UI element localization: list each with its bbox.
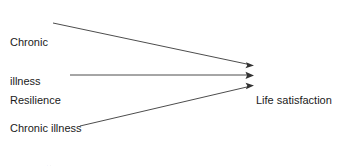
path-diagram: Chronic illness Resilience Chronic illne…	[0, 0, 349, 166]
node-interaction-term: Chronic illness × resilience (interactio…	[10, 96, 88, 166]
node-life-satisfaction-line-1: Life satisfaction	[256, 94, 332, 107]
node-interaction-multiply-symbol: ×	[10, 161, 88, 166]
edge-resilience-to-life-satisfaction	[70, 72, 254, 79]
edge-line-interaction	[80, 87, 249, 127]
arrowhead-interaction	[246, 83, 254, 89]
node-interaction-line-1: Chronic illness	[10, 122, 88, 135]
edge-line-chronic-illness	[53, 23, 249, 65]
node-chronic-illness-line-1: Chronic	[10, 36, 48, 49]
edge-chronic-illness-to-life-satisfaction	[53, 23, 254, 68]
node-life-satisfaction: Life satisfaction	[256, 68, 332, 133]
edge-interaction-to-life-satisfaction	[80, 83, 254, 126]
arrowhead-chronic-illness	[245, 62, 254, 68]
arrowhead-resilience	[246, 72, 255, 79]
